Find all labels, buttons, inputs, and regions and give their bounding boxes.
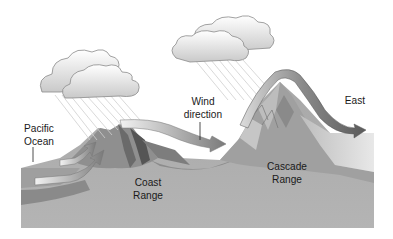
label-wind-direction: Wind direction <box>181 95 225 121</box>
label-cascade-range: Cascade Range <box>265 160 309 186</box>
label-ocean-line1: Pacific <box>21 122 58 135</box>
cloud-left <box>40 50 139 98</box>
label-cascade-line1: Cascade <box>265 160 309 173</box>
label-coast-range: Coast Range <box>130 176 165 202</box>
label-wind-line1: Wind <box>181 95 225 108</box>
label-pacific-ocean: Pacific Ocean <box>21 122 58 148</box>
label-coast-line1: Coast <box>130 176 165 189</box>
label-ocean-line2: Ocean <box>21 135 58 148</box>
rain-shadow-diagram: Pacific Ocean Coast Range Wind direction… <box>0 0 393 239</box>
label-wind-line2: direction <box>181 108 225 121</box>
label-east: East <box>342 94 368 107</box>
label-coast-line2: Range <box>130 189 165 202</box>
label-cascade-line2: Range <box>265 173 309 186</box>
cloud-right <box>172 16 274 62</box>
